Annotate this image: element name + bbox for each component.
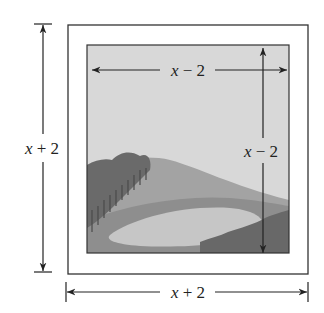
outer-width-dimension: x + 2 [66,282,308,302]
outer-height-label: x + 2 [24,139,59,158]
inner-height-label: x − 2 [243,142,278,161]
inner-width-label: x − 2 [170,61,205,80]
outer-width-label: x + 2 [170,283,205,302]
outer-height-dimension: x + 2 [24,24,59,272]
framed-picture-diagram: x + 2 x + 2 x − 2 x − 2 [0,0,324,313]
